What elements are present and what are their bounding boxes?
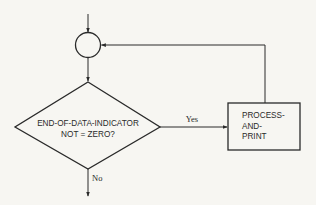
decision-node: END-OF-DATA-INDICATOR NOT = ZERO? <box>15 82 160 169</box>
decision-text-line-2: NOT = ZERO? <box>61 130 115 139</box>
process-text-line-1: PROCESS- <box>242 111 285 120</box>
no-label: No <box>92 173 102 183</box>
yes-label: Yes <box>186 114 198 124</box>
flowchart: END-OF-DATA-INDICATOR NOT = ZERO? Yes No… <box>0 0 316 205</box>
decision-text-line-1: END-OF-DATA-INDICATOR <box>37 119 139 128</box>
process-node: PROCESS- AND- PRINT <box>228 103 300 150</box>
process-text-line-2: AND- <box>242 122 262 131</box>
connector-circle <box>76 33 101 58</box>
loop-back-arrow <box>102 45 266 103</box>
process-text-line-3: PRINT <box>242 132 267 141</box>
